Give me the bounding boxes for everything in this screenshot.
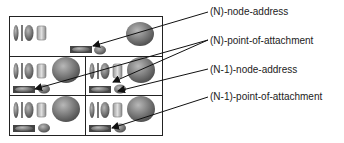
lower-layer-node-left <box>13 96 80 133</box>
lower-layer-node-right <box>89 96 155 133</box>
n1-layer-node-left <box>13 57 80 94</box>
label-n-point-of-attachment: (N)-point-of-attachment <box>210 35 313 46</box>
arrow-n1-poa <box>112 97 208 128</box>
n-layer-node <box>14 22 155 55</box>
n1-layer-node-right <box>89 57 155 94</box>
label-n-node-address: (N)-node-address <box>210 6 288 17</box>
label-n1-point-of-attachment: (N-1)-point-of-attachment <box>210 91 322 102</box>
label-n1-node-address: (N-1)-node-address <box>210 64 297 75</box>
arrow-n-poa-right <box>113 40 208 82</box>
